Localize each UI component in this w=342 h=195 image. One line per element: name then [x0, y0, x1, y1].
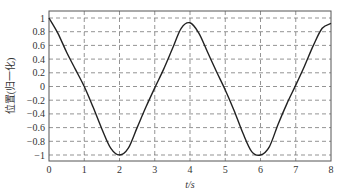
- x-tick-label: 3: [152, 164, 157, 175]
- line-chart: 10.80.60.40.20−0.2−0.4−0.6−0.8−1 0123456…: [0, 0, 342, 195]
- x-tick-label: 8: [329, 164, 334, 175]
- x-tick-label: 7: [293, 164, 298, 175]
- y-tick-label: −0.2: [27, 95, 45, 106]
- y-axis-label: 位置(归一化): [4, 58, 17, 115]
- x-tick-label: 5: [223, 164, 228, 175]
- y-axis-ticks: 10.80.60.40.20−0.2−0.4−0.6−0.8−1: [27, 13, 45, 161]
- x-tick-label: 6: [258, 164, 263, 175]
- y-tick-label: 0.6: [33, 40, 46, 51]
- y-tick-label: 1: [40, 13, 45, 24]
- x-tick-label: 2: [117, 164, 122, 175]
- y-tick-label: −0.4: [27, 108, 45, 119]
- x-axis-label: t/s: [185, 179, 195, 190]
- x-tick-label: 4: [188, 164, 193, 175]
- y-tick-label: 0.4: [33, 54, 46, 65]
- y-tick-label: 0.2: [33, 67, 46, 78]
- y-tick-label: −1: [34, 150, 45, 161]
- y-tick-label: 0: [40, 81, 45, 92]
- grid-lines: [49, 11, 331, 161]
- y-tick-label: −0.6: [27, 122, 45, 133]
- y-tick-label: −0.8: [27, 136, 45, 147]
- x-axis-ticks: 012345678: [47, 164, 334, 175]
- x-tick-label: 0: [47, 164, 52, 175]
- x-tick-label: 1: [82, 164, 87, 175]
- y-tick-label: 0.8: [33, 26, 46, 37]
